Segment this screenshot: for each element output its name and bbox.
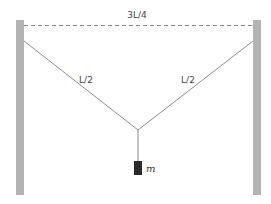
diagram-canvas: 3L/4 L/2 L/2 m xyxy=(0,0,271,204)
left-string-label: L/2 xyxy=(79,75,93,85)
right-string xyxy=(138,41,253,130)
right-wall xyxy=(253,20,261,195)
mass-block xyxy=(134,161,142,175)
right-string-label: L/2 xyxy=(181,75,195,85)
left-string xyxy=(24,41,138,130)
left-wall xyxy=(16,20,24,195)
mass-label: m xyxy=(146,163,155,174)
wall-separation-label: 3L/4 xyxy=(127,10,147,20)
